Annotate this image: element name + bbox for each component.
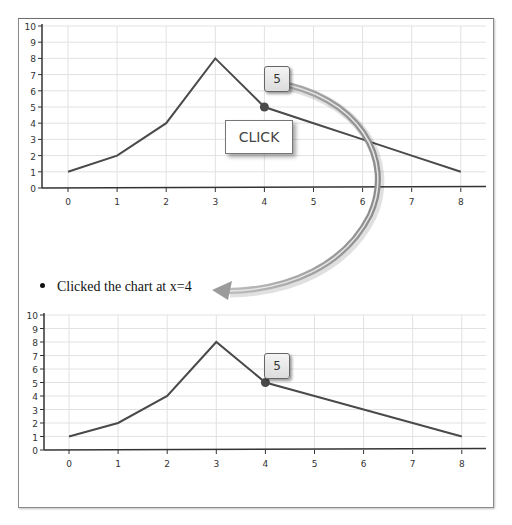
highlighted-point-marker[interactable] <box>261 378 270 387</box>
y-tick-label: 7 <box>32 352 38 362</box>
y-tick-label: 6 <box>30 87 36 97</box>
y-tick-label: 0 <box>32 446 38 456</box>
x-tick-label: 5 <box>311 197 317 207</box>
y-tick-label: 3 <box>32 406 38 416</box>
x-tick-label: 3 <box>213 459 219 469</box>
x-tick-label: 8 <box>458 197 464 207</box>
x-axis <box>44 449 486 451</box>
y-tick-label: 2 <box>32 419 38 429</box>
highlighted-point-marker[interactable] <box>260 103 269 112</box>
x-axis <box>42 187 486 189</box>
x-tick-label: 4 <box>263 459 269 469</box>
x-tick-label: 2 <box>164 459 170 469</box>
y-tick-label: 8 <box>30 54 36 64</box>
y-tick-label: 1 <box>30 168 36 178</box>
click-output-list-item: Clicked the chart at x=4 <box>40 279 192 295</box>
x-tick-label: 1 <box>114 197 120 207</box>
x-tick-label: 7 <box>410 459 416 469</box>
y-tick-label: 9 <box>32 325 38 335</box>
y-tick-label: 6 <box>32 365 38 375</box>
y-tick-label: 4 <box>30 119 36 129</box>
bottom-line-chart[interactable]: 012345678910012345678 <box>0 305 512 505</box>
click-annotation-label: CLICK <box>225 120 293 154</box>
y-tick-label: 4 <box>32 392 38 402</box>
x-tick-label: 5 <box>312 459 318 469</box>
y-tick-label: 0 <box>30 184 36 194</box>
click-output-text: Clicked the chart at x=4 <box>57 279 192 294</box>
y-tick-label: 2 <box>30 152 36 162</box>
bullet-icon <box>40 283 45 288</box>
x-tick-label: 6 <box>360 197 366 207</box>
top-line-chart[interactable]: 012345678910012345678 <box>0 0 512 215</box>
y-tick-label: 10 <box>25 22 37 32</box>
x-tick-label: 0 <box>66 459 72 469</box>
y-tick-label: 1 <box>32 433 38 443</box>
y-tick-label: 3 <box>30 135 36 145</box>
y-tick-label: 9 <box>30 38 36 48</box>
y-tick-label: 5 <box>30 103 36 113</box>
y-tick-label: 8 <box>32 338 38 348</box>
x-tick-label: 1 <box>115 459 121 469</box>
x-tick-label: 6 <box>361 459 367 469</box>
x-tick-label: 8 <box>459 459 465 469</box>
bottom-chart-tooltip: 5 <box>264 353 290 379</box>
y-tick-label: 10 <box>27 311 39 321</box>
x-tick-label: 4 <box>262 197 268 207</box>
y-tick-label: 5 <box>32 379 38 389</box>
top-chart-tooltip: 5 <box>264 66 290 92</box>
x-tick-label: 0 <box>65 197 71 207</box>
y-tick-label: 7 <box>30 71 36 81</box>
x-tick-label: 7 <box>409 197 415 207</box>
x-tick-label: 3 <box>212 197 218 207</box>
x-tick-label: 2 <box>163 197 169 207</box>
